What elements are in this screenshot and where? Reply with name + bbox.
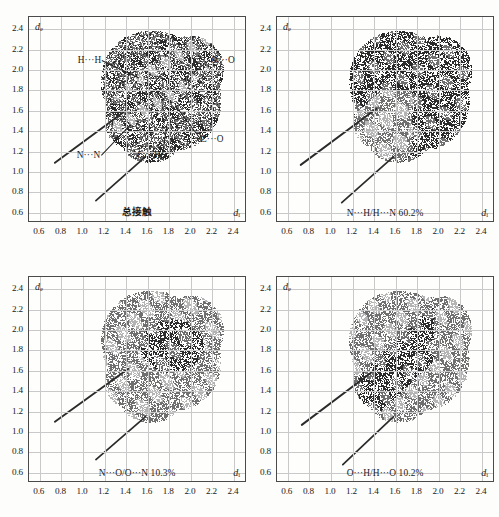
y-axis-tick-label: 1.0 [260, 426, 271, 436]
y-axis-tick-label: 1.8 [260, 344, 271, 354]
y-axis-tick-label: 0.8 [260, 446, 271, 456]
y-axis-tick-label: 0.6 [260, 467, 271, 477]
x-axis-tick-label: 0.8 [303, 486, 314, 496]
y-axis-tick-label: 1.4 [260, 385, 271, 395]
x-axis-tick-label: 0.6 [281, 486, 292, 496]
x-axis-tick-label: 1.8 [411, 486, 422, 496]
y-axis-tick-label: 2.0 [260, 324, 271, 334]
panel-caption: O···H/H···O 10.2% [347, 468, 424, 478]
y-axis-tick-label: 1.6 [260, 365, 271, 375]
y-axis-tick-label: 2.4 [260, 283, 271, 293]
x-axis-title: di [481, 467, 488, 478]
x-axis-tick-label: 1.0 [325, 486, 336, 496]
y-axis-tick-label: 1.2 [260, 406, 271, 416]
x-axis-tick-label: 2.2 [454, 486, 465, 496]
y-axis-title: de [283, 281, 291, 292]
x-axis-tick-label: 1.6 [389, 486, 400, 496]
x-axis-subscript: i [486, 471, 488, 478]
y-axis-tick-label: 2.2 [260, 304, 271, 314]
x-axis-tick-label: 2.0 [432, 486, 443, 496]
x-axis-tick-label: 2.4 [476, 486, 487, 496]
x-axis-tick-label: 1.4 [368, 486, 379, 496]
panel-o-h: dediO···H/H···O 10.2% [276, 276, 494, 482]
fingerprint-panel: dediO···H/H···O 10.2%0.60.60.80.81.01.01… [0, 0, 499, 517]
fingerprint-plot-figure: dedi总接触H···HO···ON···NC···HC···O0.60.60.… [0, 0, 499, 517]
scatter-cloud [277, 277, 494, 482]
x-axis-tick-label: 1.2 [346, 486, 357, 496]
y-axis-subscript: e [288, 285, 291, 292]
